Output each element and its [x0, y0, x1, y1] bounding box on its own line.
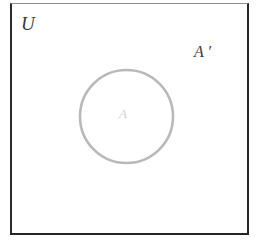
universal-set-rectangle: [10, 3, 249, 235]
venn-diagram-canvas: U A ′ A: [0, 0, 267, 252]
set-a-label: A: [119, 107, 127, 120]
complement-set-label: A ′: [194, 44, 211, 60]
universal-set-label: U: [21, 14, 35, 33]
